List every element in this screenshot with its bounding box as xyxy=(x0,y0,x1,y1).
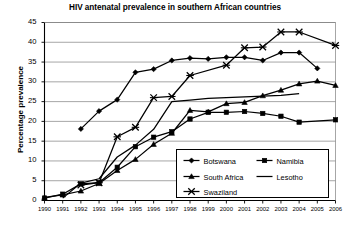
y-tick-label: 5 xyxy=(15,176,37,184)
y-tick-label: 35 xyxy=(15,58,37,66)
legend-label: South Africa xyxy=(204,173,245,182)
legend-label: Namibia xyxy=(277,157,305,166)
y-tick-label: 20 xyxy=(15,117,37,125)
legend-label: Swaziland xyxy=(204,188,238,197)
y-tick-label: 45 xyxy=(15,18,37,26)
x-tick-label: 2006 xyxy=(324,206,348,213)
legend-label: Lesotho xyxy=(277,173,303,182)
chart-title: HIV antenatal prevalence in southern Afr… xyxy=(0,3,350,12)
y-tick-label: 10 xyxy=(15,156,37,164)
y-tick-label: 0 xyxy=(15,196,37,204)
chart-legend[interactable]: BotswanaNamibiaSouth AfricaLesothoSwazil… xyxy=(177,150,329,198)
chart-figure: HIV antenatal prevalence in southern Afr… xyxy=(0,0,350,226)
y-tick-label: 15 xyxy=(15,137,37,145)
y-tick-label: 25 xyxy=(15,97,37,105)
y-tick-label: 30 xyxy=(15,77,37,85)
plot-area: BotswanaNamibiaSouth AfricaLesothoSwazil… xyxy=(0,0,350,226)
y-tick-label: 40 xyxy=(15,38,37,46)
legend-label: Botswana xyxy=(204,157,237,166)
